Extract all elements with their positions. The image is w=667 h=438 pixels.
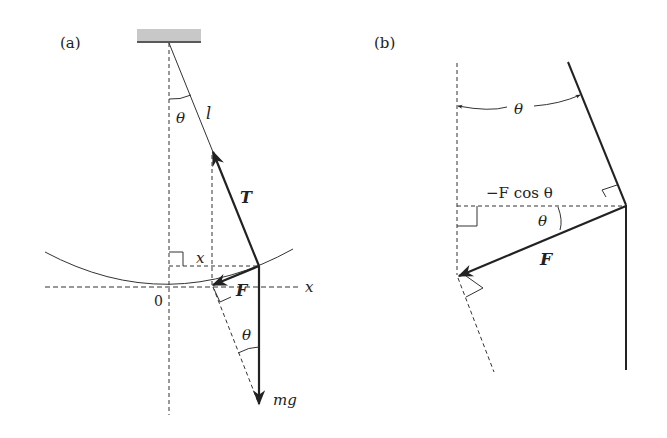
theta2-label: θ [242, 326, 251, 344]
component-line [213, 287, 258, 402]
angle-arc-theta2 [238, 347, 259, 353]
angle-arc-theta-mid [558, 207, 561, 230]
displacement-label: x [196, 249, 205, 267]
theta-mid-label: θ [538, 212, 547, 230]
right-angle-pivot [602, 185, 617, 197]
theta-label: θ [176, 109, 185, 127]
length-label: l [206, 104, 211, 123]
force-label: F [235, 281, 249, 300]
right-angle-marker [169, 252, 183, 266]
tension-label: T [240, 188, 253, 207]
origin-label: 0 [154, 293, 163, 309]
theta-arrow-right [534, 95, 580, 106]
panel-b: (b) θ −F cos θ F θ [374, 34, 626, 372]
right-angle-left [457, 206, 477, 226]
string-segment [568, 62, 626, 205]
theta-arrow-left [458, 106, 507, 109]
panel-a-label: (a) [60, 34, 81, 52]
pendulum-diagram: (a) x 0 θ l x T F [0, 0, 667, 438]
tension-vector [213, 152, 259, 266]
panel-b-label: (b) [374, 34, 395, 52]
theta-top-label: θ [514, 100, 523, 118]
force-label-b: F [539, 249, 554, 269]
right-angle-force-tip [466, 276, 483, 297]
component-label: −F cos θ [486, 184, 553, 202]
angle-arc-theta [169, 95, 191, 99]
ceiling-support [137, 29, 201, 41]
panel-a: (a) x 0 θ l x T F [45, 29, 314, 415]
weight-label: mg [273, 391, 297, 409]
diagram-canvas: (a) x 0 θ l x T F [0, 0, 667, 438]
x-axis-label: x [305, 278, 314, 296]
